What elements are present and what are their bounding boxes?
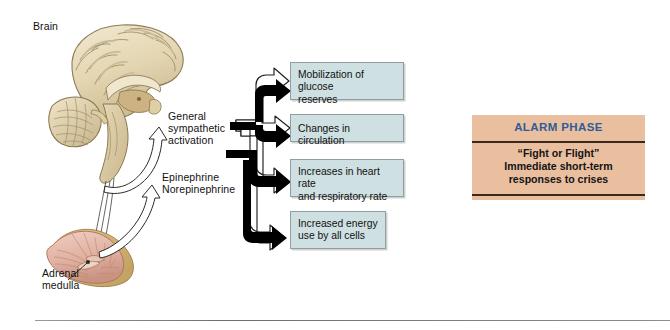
adrenal-medulla-label: Adrenal medulla bbox=[42, 267, 79, 291]
figure-canvas: Brain General sympathetic activation Epi… bbox=[0, 0, 670, 330]
bottom-divider-rule bbox=[35, 320, 670, 321]
general-sympathetic-activation-label: General sympathetic activation bbox=[168, 110, 225, 147]
outcome-box-circulation: Changes in circulation bbox=[290, 114, 404, 142]
alarm-phase-panel: ALARM PHASE “Fight or Flight” Immediate … bbox=[472, 115, 645, 200]
brain-label: Brain bbox=[33, 20, 58, 32]
alarm-phase-divider-bottom bbox=[472, 194, 645, 196]
alarm-phase-title: ALARM PHASE bbox=[472, 121, 645, 133]
brain-illustration bbox=[49, 25, 183, 183]
alarm-phase-divider-top bbox=[472, 141, 645, 143]
outcome-box-glucose: Mobilization of glucose reserves bbox=[290, 62, 404, 100]
outcome-box-energy-use: Increased energy use by all cells bbox=[290, 211, 386, 249]
epinephrine-norepinephrine-label: Epinephrine Norepinephrine bbox=[162, 171, 235, 195]
outcome-box-heart-respiratory-rate: Increases in heart rate and respiratory … bbox=[290, 159, 404, 197]
alarm-phase-body: “Fight or Flight” Immediate short-term r… bbox=[472, 147, 645, 187]
